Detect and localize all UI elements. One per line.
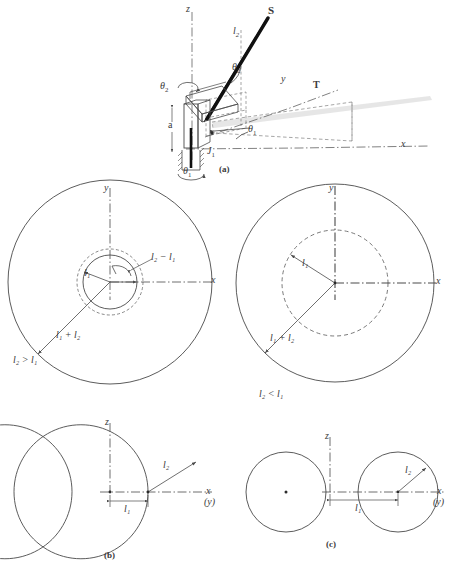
panel-b-joint-dot: [147, 491, 150, 494]
floor-shadow: [212, 96, 432, 128]
panel-c-axis-x-label: x: [437, 486, 441, 496]
axis-x-line: [186, 146, 430, 149]
panel-a-axis-z-label: z: [186, 4, 190, 14]
deadzone-tick: [112, 266, 116, 274]
left-label-l1: l₁: [84, 268, 90, 278]
joint-1-dot: [210, 131, 213, 134]
panel-a-theta1-sub: 1: [253, 129, 256, 136]
panel-b-axis-z-label: z: [105, 417, 109, 427]
panel-a-theta2-left-sub: 2: [165, 86, 168, 93]
right-center-dot: [334, 282, 337, 285]
panel-c-vector-l2: [398, 468, 426, 492]
right-vector-l1: [291, 255, 335, 283]
panel-a-theta2-left-label: θ2: [160, 81, 168, 94]
figure-root: z S T y x l2 θ2 θ2 θ1 θ1 J1 a (a) y x l₁…: [0, 0, 458, 573]
left-condition-label: l₂ > l₁: [13, 355, 37, 365]
panel-a-link2-label: l2: [233, 26, 239, 39]
panel-a-link2-sub: 2: [236, 31, 239, 38]
panel-a-caption: (a): [219, 165, 230, 174]
left-axis-y-label: y: [104, 183, 108, 193]
panel-a-theta2-label: θ2: [232, 62, 240, 75]
panel-a-theta1-base-label: θ1: [183, 166, 191, 179]
workspace-left-group: [8, 180, 212, 384]
panel-c-group: [246, 437, 444, 532]
panel-c-dim-l2-label: l₂: [405, 465, 411, 475]
panel-b-dim-l1-label: l₁: [124, 504, 130, 514]
panel-a-theta1-label: θ1: [248, 124, 256, 137]
panel-c-axis-z-label: z: [325, 431, 329, 441]
panel-c-dim-l1-label: l₁: [355, 503, 361, 513]
panel-c-dim-l1: [330, 494, 398, 506]
panel-b-origin-dot: [109, 491, 112, 494]
panel-b-group: [0, 423, 212, 559]
workspace-right-group: [236, 184, 436, 382]
right-label-l1-plus-l2: l₁ + l₂: [270, 333, 294, 343]
panel-b-dim-l2-label: l₂: [163, 460, 169, 470]
elbow-prism: [186, 82, 238, 122]
cage-top: [206, 92, 246, 118]
panel-a-point-s-label: S: [268, 5, 274, 16]
panel-a-offset-a-label: a: [168, 120, 172, 130]
panel-a-theta1-base-sub: 1: [188, 171, 191, 178]
right-label-l1: l₁: [302, 258, 308, 268]
left-vector-l1-plus-l2: [38, 282, 110, 354]
theta1-angle-arc: [236, 132, 248, 139]
panel-c-axis-y-label: (y): [433, 497, 444, 507]
tower-side: [198, 100, 210, 148]
panel-c-caption: (c): [326, 540, 336, 549]
right-axis-y-label: y: [329, 183, 333, 193]
panel-a-joint1-sub: 1: [211, 151, 214, 158]
panel-a-theta2-sub: 2: [237, 67, 240, 74]
left-label-l1-plus-l2: l₁ + l₂: [56, 330, 80, 340]
panel-a-axis-x-label: x: [401, 139, 405, 149]
bearing-hatch-right: [200, 148, 204, 167]
panel-c-left-center-dot: [285, 491, 288, 494]
deadzone-curve: [112, 266, 131, 276]
panel-a-joint1-label: J1: [207, 146, 215, 159]
panel-a-axis-y-label: y: [281, 74, 285, 84]
panel-b-axis-x-label: x: [206, 486, 210, 496]
panel-c-joint-dot: [397, 491, 400, 494]
figure-canvas: [0, 0, 458, 573]
right-axis-x-label: x: [436, 276, 440, 286]
left-label-annulus: l₂ − l₁: [151, 252, 175, 262]
annulus-leader: [131, 259, 152, 270]
left-axis-x-label: x: [211, 275, 215, 285]
panel-a-point-t-label: T: [313, 80, 320, 90]
right-condition-label: l₂ < l₁: [259, 389, 283, 399]
panel-b-axis-y-label: (y): [204, 497, 215, 507]
panel-b-caption: (b): [104, 551, 115, 560]
bearing-hatch-left: [178, 152, 182, 171]
